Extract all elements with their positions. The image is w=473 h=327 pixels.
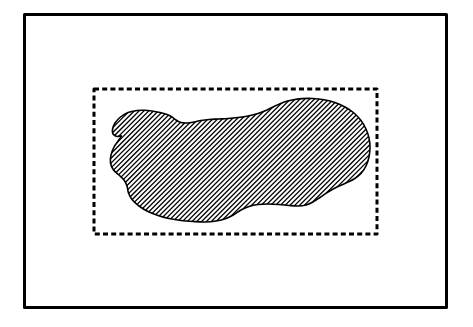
figure-root [0,0,473,327]
scatter-region-figure [0,0,473,327]
